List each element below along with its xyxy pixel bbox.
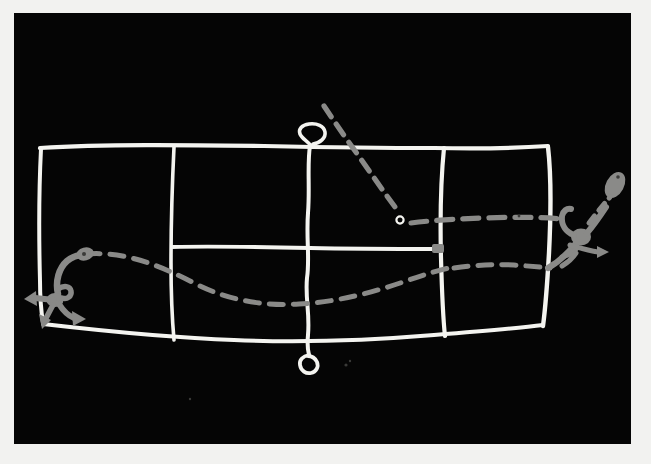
small-circle-marker (396, 216, 403, 223)
bottom-loop-marker (300, 355, 318, 373)
sketch-canvas (14, 13, 631, 444)
top-loop-marker (299, 124, 325, 146)
vertical-divider-3 (441, 148, 445, 336)
dashed-lower-curve-path (86, 254, 454, 305)
left-arrow-cluster[interactable] (24, 245, 95, 329)
dashed-diagonal-path (324, 106, 398, 211)
dashed-right-curve-path (454, 265, 550, 268)
vertical-divider-2 (307, 146, 310, 355)
board-specks (189, 215, 521, 401)
grid-outline (39, 145, 550, 341)
blackboard-surface (14, 13, 631, 444)
photo-frame (0, 0, 651, 464)
dashed-upper-right-path (411, 217, 562, 223)
right-arrow-cluster[interactable] (548, 168, 630, 268)
vertical-divider-1 (171, 147, 174, 340)
